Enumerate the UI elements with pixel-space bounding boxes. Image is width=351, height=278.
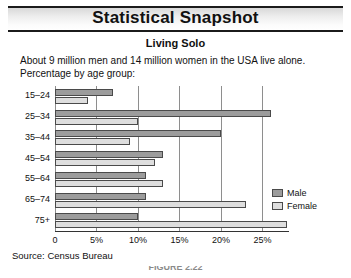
x-tick-label: 5%	[90, 235, 103, 245]
bar-female	[55, 159, 155, 166]
x-axis-line	[55, 231, 289, 232]
bar-male	[55, 213, 138, 220]
category-label: 45–54	[6, 153, 50, 163]
x-tick-label: 20%	[212, 235, 230, 245]
x-tick-label: 25%	[253, 235, 271, 245]
legend-swatch-male-icon	[272, 189, 283, 197]
figure-caption-sliver: FIGURE 2.22	[0, 266, 351, 278]
legend-item-male: Male	[272, 188, 317, 198]
figure-caption: FIGURE 2.22	[0, 266, 351, 272]
bar-group	[55, 107, 289, 128]
bar-female	[55, 201, 246, 208]
chart-subtitle: Living Solo	[8, 37, 343, 49]
statistical-snapshot-figure: Statistical Snapshot Living Solo About 9…	[0, 0, 351, 278]
legend-swatch-female-icon	[272, 202, 283, 210]
bar-female	[55, 221, 287, 228]
bar-male	[55, 151, 163, 158]
bar-group	[55, 169, 289, 190]
chart-legend: Male Female	[272, 188, 317, 214]
bar-male	[55, 89, 113, 96]
category-label: 15–24	[6, 90, 50, 100]
x-tick-label: 15%	[170, 235, 188, 245]
x-tick-label: 0	[52, 235, 57, 245]
bar-female	[55, 180, 163, 187]
description-line-2: Percentage by age group:	[20, 67, 340, 80]
bar-group	[55, 210, 289, 231]
category-label: 65–74	[6, 194, 50, 204]
chart-plot-area	[55, 86, 289, 231]
bar-group	[55, 86, 289, 107]
chart-description: About 9 million men and 14 million women…	[20, 54, 340, 80]
legend-label-male: Male	[287, 188, 307, 198]
bar-male	[55, 172, 146, 179]
page-title: Statistical Snapshot	[8, 8, 343, 28]
bar-group	[55, 127, 289, 148]
source-note: Source: Census Bureau	[12, 250, 113, 261]
bar-male	[55, 193, 146, 200]
x-tick-label: 10%	[129, 235, 147, 245]
legend-item-female: Female	[272, 201, 317, 211]
bar-female	[55, 118, 138, 125]
bar-female	[55, 138, 130, 145]
category-label: 25–34	[6, 111, 50, 121]
description-line-1: About 9 million men and 14 million women…	[20, 54, 340, 67]
bar-male	[55, 110, 271, 117]
category-label: 75+	[6, 215, 50, 225]
bar-group	[55, 148, 289, 169]
category-label: 55–64	[6, 173, 50, 183]
bar-male	[55, 130, 221, 137]
legend-label-female: Female	[287, 201, 317, 211]
category-label: 35–44	[6, 132, 50, 142]
bar-female	[55, 97, 88, 104]
bar-group	[55, 190, 289, 211]
